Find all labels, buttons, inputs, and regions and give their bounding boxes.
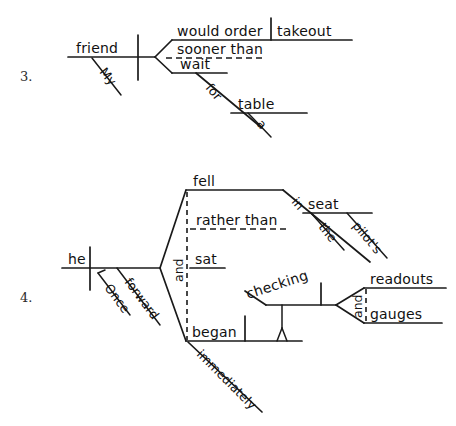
word-seat: seat <box>308 196 339 212</box>
word-readouts: readouts <box>370 271 433 287</box>
word-takeout: takeout <box>277 23 332 39</box>
sentence-diagram-canvas: 3. friend My would order takeout sooner … <box>0 0 456 426</box>
word-wait: wait <box>180 56 211 72</box>
word-sooner-than: sooner than <box>177 41 263 57</box>
word-began: began <box>192 324 237 340</box>
word-and-objects: and <box>350 294 365 318</box>
exercise-4-number: 4. <box>20 290 32 305</box>
word-rather-than: rather than <box>196 212 278 228</box>
word-gauges: gauges <box>370 306 422 322</box>
word-would-order: would order <box>177 23 263 39</box>
word-he: he <box>68 251 86 267</box>
word-sat: sat <box>195 251 217 267</box>
word-fell: fell <box>193 173 215 189</box>
word-friend: friend <box>76 40 118 56</box>
word-table: table <box>238 96 274 112</box>
exercise-3-number: 3. <box>20 69 32 84</box>
word-and-verbs: and <box>171 258 186 282</box>
